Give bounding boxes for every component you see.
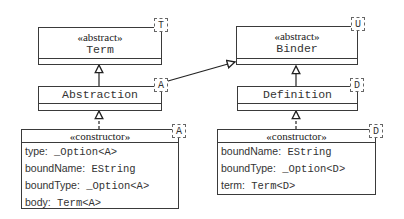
class-definition-constructor[interactable]: «constructor» boundName: EString boundTy… (217, 129, 376, 195)
class-abstraction[interactable]: Abstraction (38, 86, 162, 111)
abstraction-to-binder-generalization (168, 62, 235, 81)
template-parameter-tag: A (154, 78, 168, 92)
class-abstraction-constructor[interactable]: «constructor» type: _Option<A> boundName… (21, 129, 179, 209)
attribute-type: type: _Option<A> (25, 143, 176, 160)
template-parameter-tag: D (350, 78, 364, 92)
attribute-compartment (237, 58, 357, 59)
attribute-compartment (39, 58, 161, 59)
template-parameter-tag: A (172, 124, 186, 138)
class-name: Binder (237, 42, 357, 56)
attribute-term: term: Term<D> (221, 177, 373, 194)
attribute-compartment (238, 103, 357, 104)
stereotype-label: «constructor» (22, 130, 178, 142)
attribute-list: boundName: EString boundType: _Option<D>… (221, 143, 373, 194)
attribute-boundname: boundName: EString (221, 143, 373, 160)
attribute-boundname: boundName: EString (25, 160, 176, 177)
stereotype-label: «abstract» (237, 30, 357, 42)
attribute-body: body: Term<A> (25, 194, 176, 211)
class-name: Abstraction (39, 88, 161, 102)
attribute-list: type: _Option<A> boundName: EString boun… (25, 143, 176, 211)
attribute-compartment (39, 103, 161, 104)
class-name: Term (39, 43, 161, 57)
class-name: Definition (238, 88, 357, 102)
class-definition[interactable]: Definition (237, 86, 358, 111)
attribute-boundtype: boundType: _Option<A> (25, 177, 176, 194)
stereotype-label: «constructor» (218, 130, 375, 142)
attribute-boundtype: boundType: _Option<D> (221, 160, 373, 177)
template-parameter-tag: T (154, 18, 168, 32)
class-term[interactable]: «abstract» Term (38, 27, 162, 65)
stereotype-label: «abstract» (39, 31, 161, 43)
class-binder[interactable]: «abstract» Binder (236, 26, 358, 65)
template-parameter-tag: U (351, 17, 365, 31)
template-parameter-tag: D (369, 124, 383, 138)
